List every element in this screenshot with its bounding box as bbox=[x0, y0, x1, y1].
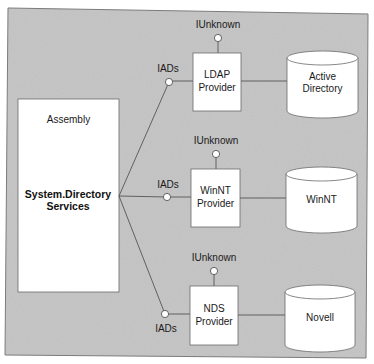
assembly-header: Assembly bbox=[47, 114, 90, 125]
iads-lollipop-icon bbox=[163, 193, 170, 200]
iads-lollipop-icon bbox=[161, 310, 168, 317]
iunknown-label: IUnknown bbox=[194, 135, 238, 146]
provider-name-line1: NDS bbox=[203, 303, 224, 314]
iads-label: IADs bbox=[157, 63, 179, 74]
provider-name-line2: Provider bbox=[195, 316, 233, 327]
iunknown-lollipop-icon bbox=[214, 34, 221, 41]
iunknown-lollipop-icon bbox=[210, 267, 217, 274]
assembly-name-line1: System.Directory bbox=[25, 188, 112, 200]
adsi-architecture-diagram: Assembly System.Directory Services IUnkn… bbox=[0, 0, 374, 364]
store-name-line1: Active bbox=[309, 71, 337, 82]
iunknown-lollipop-icon bbox=[212, 150, 219, 157]
iads-label: IADs bbox=[157, 179, 179, 190]
assembly-name-line2: Services bbox=[46, 200, 89, 212]
assembly-box: Assembly System.Directory Services bbox=[18, 99, 119, 292]
provider-name-line2: Provider bbox=[198, 82, 236, 93]
store-name-line1: WinNT bbox=[306, 194, 337, 205]
provider-name-line1: WinNT bbox=[200, 185, 231, 196]
iads-label: IADs bbox=[155, 323, 177, 334]
provider-name-line1: LDAP bbox=[204, 69, 230, 80]
iads-lollipop-icon bbox=[165, 78, 172, 85]
store-name-line1: Novell bbox=[306, 312, 334, 323]
iunknown-label: IUnknown bbox=[192, 252, 236, 263]
provider-name-line2: Provider bbox=[197, 198, 235, 209]
store-name-line2: Directory bbox=[302, 83, 342, 94]
iunknown-label: IUnknown bbox=[196, 19, 240, 30]
